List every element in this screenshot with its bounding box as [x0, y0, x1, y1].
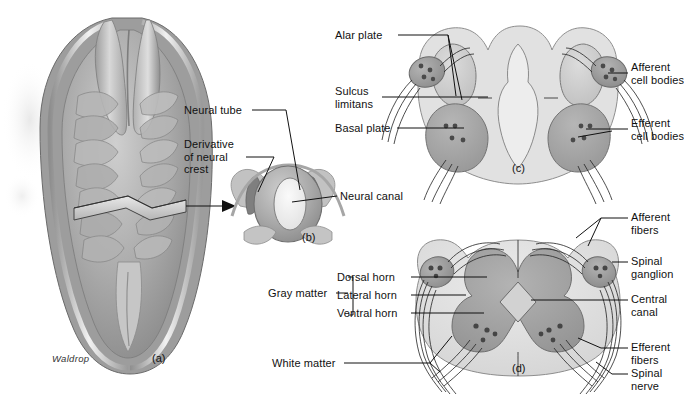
- panel-a-embryo: [2, 18, 236, 374]
- label-neural-tube: Neural tube: [184, 104, 242, 117]
- label-white-matter: White matter: [272, 357, 336, 370]
- panel-b-neural-tube: [231, 165, 344, 244]
- basal-plate-right: [548, 104, 610, 172]
- label-spinal-ganglion: Spinal ganglion: [631, 255, 673, 280]
- basal-plate-left: [426, 104, 488, 172]
- leader-afferent-fibers-2: [576, 218, 601, 238]
- caption-panel-c: (c): [512, 162, 525, 174]
- label-afferent-cell-bodies: Afferent cell bodies: [631, 61, 684, 86]
- caption-panel-d: (d): [512, 362, 525, 374]
- label-basal-plate: Basal plate: [335, 122, 391, 135]
- label-afferent-fibers: Afferent fibers: [631, 211, 670, 236]
- label-neural-canal: Neural canal: [340, 190, 403, 203]
- caption-panel-b: (b): [302, 231, 315, 243]
- caption-panel-a: (a): [152, 352, 165, 364]
- artist-signature: Waldrop: [52, 353, 89, 364]
- label-ventral-horn: Ventral horn: [337, 307, 398, 320]
- label-alar-plate: Alar plate: [335, 29, 382, 42]
- label-lateral-horn: Lateral horn: [337, 289, 397, 302]
- somite-left: [244, 226, 276, 244]
- embryo-shadow-smear-2: [4, 174, 40, 218]
- label-dorsal-horn: Dorsal horn: [337, 271, 395, 284]
- label-efferent-fibers: Efferent fibers: [631, 341, 670, 366]
- label-spinal-nerve: Spinal nerve: [631, 367, 662, 392]
- label-gray-matter: Gray matter: [268, 287, 327, 300]
- label-derivative-neural-crest: Derivative of neural crest: [184, 138, 234, 176]
- panel-c-developing-cord: [382, 26, 654, 204]
- label-sulcus-limitans: Sulcus limitans: [335, 85, 373, 110]
- neural-canal-lumen: [274, 178, 306, 230]
- label-central-canal: Central canal: [631, 293, 667, 318]
- label-efferent-cell-bodies: Efferent cell bodies: [631, 117, 684, 142]
